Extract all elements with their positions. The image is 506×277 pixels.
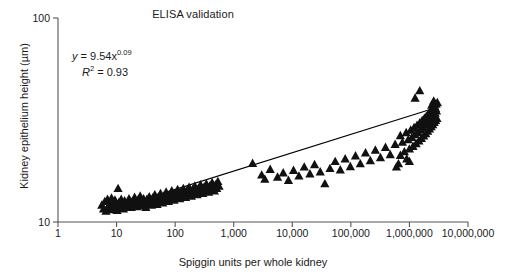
x-tick-label: 10 xyxy=(111,227,123,239)
data-point-marker xyxy=(331,157,340,165)
x-tick-label: 1,000 xyxy=(221,227,247,239)
data-point-marker xyxy=(289,166,298,174)
data-point-marker xyxy=(336,165,345,173)
data-point-marker xyxy=(346,162,355,170)
data-point-marker xyxy=(381,143,390,151)
y-tick-label: 10 xyxy=(10,216,50,228)
x-tick-label: 100 xyxy=(166,227,184,239)
axes-lines xyxy=(53,18,468,227)
data-point-marker xyxy=(351,151,360,159)
data-point-marker xyxy=(391,140,400,148)
chart-figure: ELISA validation Kidney epithelium heigh… xyxy=(0,0,506,277)
data-points xyxy=(97,86,442,215)
data-point-marker xyxy=(361,148,370,156)
data-point-marker xyxy=(316,167,325,175)
data-point-marker xyxy=(415,86,424,94)
data-point-marker xyxy=(366,156,375,164)
data-point-marker xyxy=(371,145,380,153)
x-tick-label: 100,000 xyxy=(332,227,370,239)
x-tick-label: 10,000 xyxy=(276,227,308,239)
x-tick-label: 1,000,000 xyxy=(386,227,433,239)
data-point-marker xyxy=(320,179,329,187)
data-point-marker xyxy=(279,168,288,176)
x-tick-label: 1 xyxy=(55,227,61,239)
data-point-marker xyxy=(300,162,309,170)
data-point-marker xyxy=(356,159,365,167)
data-point-marker xyxy=(113,184,122,192)
x-tick-label: 10,000,000 xyxy=(442,227,495,239)
data-point-marker xyxy=(266,165,275,173)
data-point-marker xyxy=(284,176,293,184)
y-tick-label: 100 xyxy=(10,12,50,24)
data-point-marker xyxy=(341,154,350,162)
data-point-marker xyxy=(376,153,385,161)
data-point-marker xyxy=(310,160,319,168)
data-point-marker xyxy=(411,93,420,101)
data-point-marker xyxy=(394,159,403,167)
data-point-marker xyxy=(248,158,257,166)
